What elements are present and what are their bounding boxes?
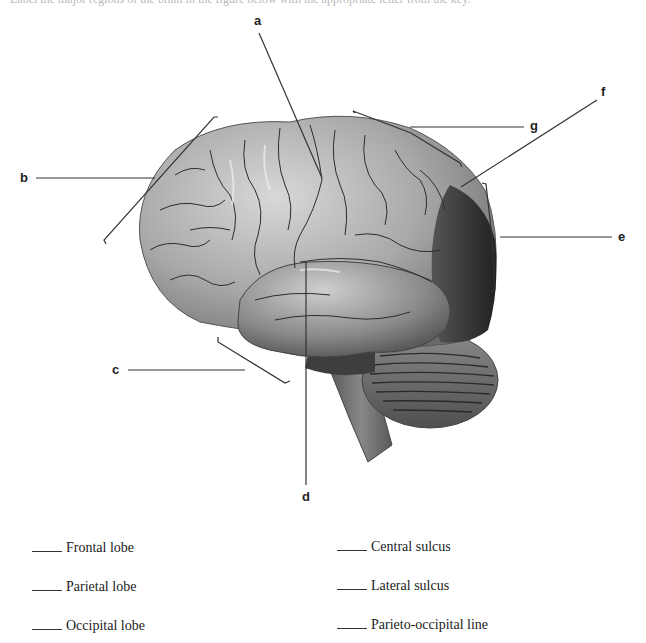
label-b: b: [20, 171, 28, 184]
key-item-parietal-lobe: Parietal lobe: [32, 579, 136, 595]
answer-blank[interactable]: [337, 549, 367, 551]
label-a: a: [254, 14, 261, 27]
key-item-parieto-occipital-line: Parieto-occipital line: [337, 617, 488, 633]
key-label: Parieto-occipital line: [371, 617, 488, 632]
answer-blank[interactable]: [337, 627, 367, 629]
key-item-occipital-lobe: Occipital lobe: [32, 618, 145, 634]
answer-blank[interactable]: [32, 628, 62, 630]
label-e: e: [618, 230, 625, 243]
key-label: Lateral sulcus: [371, 578, 449, 593]
answer-blank[interactable]: [32, 589, 62, 591]
label-d: d: [302, 490, 310, 503]
key-item-central-sulcus: Central sulcus: [337, 539, 451, 555]
label-f: f: [601, 85, 605, 98]
key-item-lateral-sulcus: Lateral sulcus: [337, 578, 449, 594]
answer-blank[interactable]: [32, 550, 62, 552]
key-label: Occipital lobe: [66, 618, 145, 633]
leader-line-f: [461, 100, 597, 187]
key-item-frontal-lobe: Frontal lobe: [32, 540, 134, 556]
label-c: c: [112, 363, 119, 376]
label-g: g: [530, 119, 538, 132]
answer-blank[interactable]: [337, 588, 367, 590]
key-label: Central sulcus: [371, 539, 451, 554]
key-label: Frontal lobe: [66, 540, 134, 555]
key-label: Parietal lobe: [66, 579, 136, 594]
